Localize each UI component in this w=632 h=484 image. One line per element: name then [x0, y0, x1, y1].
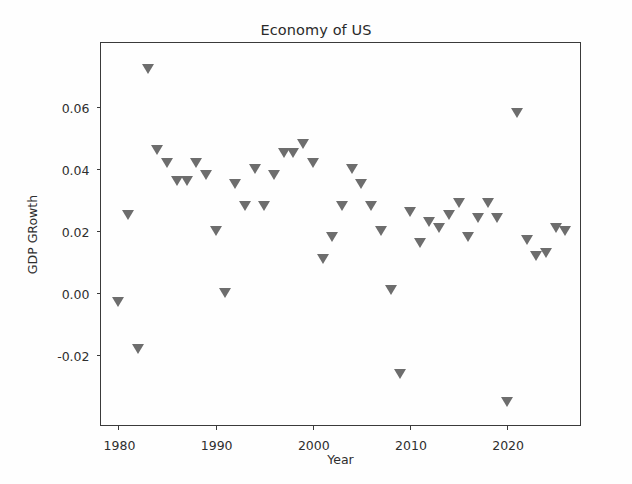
- y-tick-label: 0.00: [62, 287, 90, 302]
- x-tick-label: 1980: [104, 438, 136, 453]
- x-tick: 2010: [410, 425, 411, 430]
- y-axis-label: GDP GRowth: [24, 42, 42, 426]
- data-point: [521, 235, 533, 245]
- data-point: [482, 198, 494, 208]
- data-point: [472, 213, 484, 223]
- data-point: [346, 164, 358, 174]
- scatter-markers: [101, 43, 580, 425]
- data-point: [317, 254, 329, 264]
- data-point: [190, 158, 202, 168]
- data-point: [365, 201, 377, 211]
- x-tick-label: 1990: [201, 438, 233, 453]
- data-point: [181, 176, 193, 186]
- data-point: [336, 201, 348, 211]
- x-axis-label: Year: [100, 452, 581, 467]
- data-point: [151, 145, 163, 155]
- data-point: [161, 158, 173, 168]
- data-point: [297, 139, 309, 149]
- x-tick: 2000: [313, 425, 314, 430]
- chart-title: Economy of US: [0, 22, 632, 38]
- x-tick-label: 2020: [492, 438, 524, 453]
- data-point: [414, 238, 426, 248]
- data-point: [210, 226, 222, 236]
- data-point: [404, 207, 416, 217]
- data-point: [268, 170, 280, 180]
- data-point: [200, 170, 212, 180]
- data-point: [453, 198, 465, 208]
- data-point: [229, 179, 241, 189]
- data-point: [287, 148, 299, 158]
- data-point: [540, 248, 552, 258]
- x-tick: 1980: [118, 425, 119, 430]
- y-axis-label-text: GDP GRowth: [26, 194, 41, 273]
- data-point: [326, 232, 338, 242]
- y-tick-label: 0.02: [62, 224, 90, 239]
- data-point: [462, 232, 474, 242]
- data-point: [491, 213, 503, 223]
- data-point: [375, 226, 387, 236]
- data-point: [559, 226, 571, 236]
- data-point: [249, 164, 261, 174]
- y-tick-label: 0.06: [62, 100, 90, 115]
- data-point: [122, 210, 134, 220]
- data-point: [394, 369, 406, 379]
- plot-area: -0.020.000.020.040.06 198019902000201020…: [100, 42, 581, 426]
- data-point: [385, 285, 397, 295]
- data-point: [112, 297, 124, 307]
- data-point: [132, 344, 144, 354]
- x-tick-label: 2010: [395, 438, 427, 453]
- data-point: [433, 223, 445, 233]
- x-tick: 2020: [507, 425, 508, 430]
- x-tick: 1990: [216, 425, 217, 430]
- data-point: [501, 397, 513, 407]
- data-point: [355, 179, 367, 189]
- data-point: [443, 210, 455, 220]
- x-tick-label: 2000: [298, 438, 330, 453]
- data-point: [307, 158, 319, 168]
- chart-figure: Economy of US GDP GRowth -0.020.000.020.…: [0, 0, 632, 484]
- data-point: [511, 108, 523, 118]
- data-point: [142, 64, 154, 74]
- y-tick-label: 0.04: [62, 162, 90, 177]
- data-point: [258, 201, 270, 211]
- data-point: [239, 201, 251, 211]
- data-point: [219, 288, 231, 298]
- y-tick-label: -0.02: [57, 349, 89, 364]
